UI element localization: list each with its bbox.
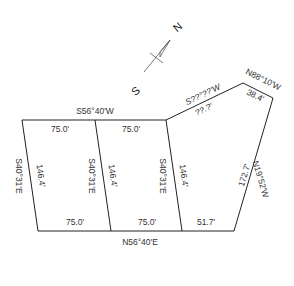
lot3-side-bearing: S40°31'E [158,158,168,194]
right-distance-label: 172.7' [236,162,252,187]
left-bearing-label: S40°31'E [14,158,24,194]
lot2-top-frontage: 75.0' [122,124,141,134]
top-bearing-label: S56°40'W [76,106,114,116]
lot1-bottom-frontage: 75.0' [66,217,85,227]
survey-plat: N S S56°40'W 75.0' 75.0' S??°??'W ??.?' … [0,0,294,286]
top-right-distance-label: 38.4' [245,87,266,104]
right-bearing-label: N19°52'W [251,159,271,198]
south-label: S [129,84,142,98]
north-label: N [171,20,185,34]
bottom-bearing-label: N56°40'E [122,237,158,247]
lot3-side-distance: 146.4' [177,164,190,188]
north-arrow: N S [129,20,185,98]
lot1-side-distance: 146.4' [34,164,47,188]
lot2-bottom-frontage: 75.0' [138,217,157,227]
lot2-side-bearing: S40°31'E [87,158,97,194]
lot2-side-distance: 146.4' [106,164,119,188]
lot3-bottom-frontage: 51.7' [197,217,216,227]
boundary-lines [22,83,273,231]
lot1-top-frontage: 75.0' [51,124,70,134]
north-arrow-head [160,40,170,57]
slant-distance-label: ??.?' [193,101,214,118]
